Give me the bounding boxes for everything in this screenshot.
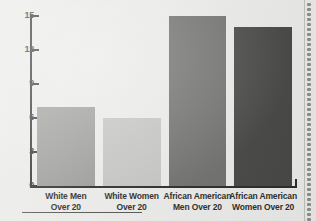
chart-page: 03691215 White MenOver 20White WomenOver… [0, 0, 316, 221]
y-axis-tick-label: 15 [12, 11, 34, 20]
x-axis-category-label: African AmericanWomen Over 20 [227, 191, 299, 212]
bar-chart: 03691215 White MenOver 20White WomenOver… [0, 0, 316, 221]
binding-hole [307, 138, 311, 141]
bar [103, 118, 161, 186]
category-label-line: Men Over 20 [162, 202, 234, 213]
binding-hole [307, 118, 311, 121]
binding-hole [307, 43, 311, 46]
spiral-binding-holes-icon [303, 0, 312, 221]
bar [37, 107, 95, 186]
category-label-line: African American [229, 191, 297, 201]
binding-hole [307, 143, 311, 146]
binding-hole [307, 218, 311, 221]
binding-hole [307, 198, 311, 201]
y-axis-tick-label: 6 [12, 113, 34, 122]
binding-hole [307, 3, 311, 6]
x-axis-category-label: White MenOver 20 [30, 191, 102, 212]
binding-hole [307, 158, 311, 161]
binding-hole [307, 133, 311, 136]
category-label-line: Women Over 20 [227, 202, 299, 213]
binding-hole [307, 93, 311, 96]
binding-hole [307, 83, 311, 86]
binding-hole [307, 173, 311, 176]
category-label-line: African American [164, 191, 232, 201]
x-axis-category-label: White WomenOver 20 [96, 191, 168, 212]
binding-hole [307, 103, 311, 106]
x-axis-line [30, 186, 297, 188]
binding-hole [307, 113, 311, 116]
binding-hole [307, 13, 311, 16]
x-axis-end-tick [295, 179, 297, 188]
footer-rule [22, 212, 142, 213]
binding-hole [307, 153, 311, 156]
binding-hole [307, 108, 311, 111]
binding-hole [307, 38, 311, 41]
binding-hole [307, 28, 311, 31]
binding-hole [307, 168, 311, 171]
binding-hole [307, 163, 311, 166]
binding-hole [307, 48, 311, 51]
bar [169, 16, 227, 186]
binding-hole [307, 53, 311, 56]
y-axis-tick-label: 9 [12, 79, 34, 88]
binding-hole [307, 78, 311, 81]
binding-hole [307, 23, 311, 26]
binding-hole [307, 213, 311, 216]
y-axis-tick-label: 0 [12, 181, 34, 190]
category-label-line: White Women [104, 191, 158, 201]
binding-hole [307, 178, 311, 181]
category-label-line: White Men [45, 191, 86, 201]
bar [234, 27, 292, 186]
binding-hole [307, 8, 311, 11]
y-axis-tick-label: 3 [12, 147, 34, 156]
binding-hole [307, 18, 311, 21]
binding-hole [307, 193, 311, 196]
y-axis-line [30, 14, 32, 188]
binding-hole [307, 123, 311, 126]
binding-hole [307, 98, 311, 101]
binding-hole [307, 148, 311, 151]
binding-hole [307, 33, 311, 36]
binding-hole [307, 188, 311, 191]
binding-hole [307, 183, 311, 186]
binding-hole [307, 208, 311, 211]
category-label-line: Over 20 [96, 202, 168, 213]
category-label-line: Over 20 [30, 202, 102, 213]
binding-hole [307, 73, 311, 76]
y-axis-tick-label: 12 [12, 45, 34, 54]
binding-hole [307, 88, 311, 91]
binding-hole [307, 63, 311, 66]
binding-edge-line [304, 0, 305, 221]
binding-hole [307, 203, 311, 206]
binding-hole [307, 128, 311, 131]
binding-hole [307, 68, 311, 71]
binding-hole [307, 58, 311, 61]
x-axis-category-label: African AmericanMen Over 20 [162, 191, 234, 212]
